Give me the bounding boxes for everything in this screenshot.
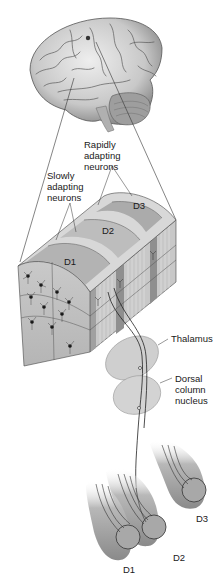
label-line: Slowly [47, 170, 83, 181]
finger-label-d1: D1 [123, 564, 135, 575]
cortex-label-d2: D2 [102, 225, 114, 236]
brain-illustration [30, 18, 162, 132]
cortex-label-d1: D1 [64, 256, 76, 267]
label-line: Dorsal [175, 373, 208, 384]
label-line: Rapidly [84, 139, 120, 150]
cortex-label-d3: D3 [133, 200, 145, 211]
label-slowly-adapting: Slowly adapting neurons [47, 170, 83, 203]
label-rapidly-adapting: Rapidly adapting neurons [84, 139, 120, 172]
label-line: nucleus [175, 395, 208, 406]
finger-d3 [150, 440, 206, 509]
fingers [86, 440, 206, 560]
label-line: adapting [84, 150, 120, 161]
finger-label-d3: D3 [196, 513, 208, 524]
label-line: neurons [84, 161, 120, 172]
label-line: column [175, 384, 208, 395]
label-dorsal-column-nucleus: Dorsal column nucleus [175, 373, 208, 406]
label-thalamus: Thalamus [171, 333, 213, 344]
label-line: neurons [47, 192, 83, 203]
finger-label-d2: D2 [173, 552, 185, 563]
figure-illustration [0, 0, 224, 582]
label-line: adapting [47, 181, 83, 192]
